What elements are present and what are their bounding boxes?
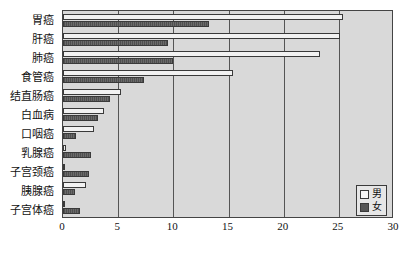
category-axis-labels: 胃癌肝癌肺癌食管癌结直肠癌白血病口咽癌乳腺癌子宫颈癌胰腺癌子宫体癌 (0, 10, 58, 218)
bar-male (63, 89, 121, 95)
bar-male (63, 182, 86, 188)
category-label: 食管癌 (0, 67, 58, 86)
bar-male (63, 108, 104, 114)
category-label: 结直肠癌 (0, 86, 58, 105)
category-label: 胰腺癌 (0, 180, 58, 199)
category-label: 子宫体癌 (0, 199, 58, 218)
legend-swatch-female (360, 203, 369, 212)
legend-item[interactable]: 女 (360, 202, 382, 212)
bar-group (63, 86, 392, 105)
bar-group (63, 105, 392, 124)
value-axis: 051015202530 (62, 218, 393, 242)
category-label: 肺癌 (0, 48, 58, 67)
bar-female (63, 77, 144, 83)
bar-group (63, 180, 392, 199)
bar-male (63, 70, 233, 76)
bar-male (63, 14, 343, 20)
x-axis-tick-label: 5 (114, 220, 120, 232)
bar-groups (63, 11, 392, 217)
category-label: 白血病 (0, 105, 58, 124)
bar-male (63, 51, 320, 57)
bar-female (63, 152, 91, 158)
bar-male (63, 164, 65, 170)
bar-female (63, 208, 80, 214)
bar-group (63, 30, 392, 49)
bar-female (63, 115, 98, 121)
category-label: 肝癌 (0, 29, 58, 48)
bar-group (63, 11, 392, 30)
bar-male (63, 33, 340, 39)
category-label: 胃癌 (0, 10, 58, 29)
legend: 男女 (356, 185, 387, 216)
bar-group (63, 142, 392, 161)
bar-male (63, 145, 66, 151)
bar-male (63, 201, 65, 207)
x-axis-tick-label: 20 (277, 220, 288, 232)
bar-male (63, 126, 94, 132)
category-label: 口咽癌 (0, 123, 58, 142)
bar-female (63, 58, 173, 64)
x-axis-tick-label: 10 (167, 220, 178, 232)
bar-group (63, 123, 392, 142)
bar-female (63, 96, 110, 102)
category-label: 子宫颈癌 (0, 161, 58, 180)
bar-group (63, 67, 392, 86)
legend-label: 女 (372, 202, 382, 212)
x-axis-tick-label: 15 (222, 220, 233, 232)
bar-group (63, 48, 392, 67)
x-axis-tick-label: 25 (332, 220, 343, 232)
legend-swatch-male (360, 190, 369, 199)
legend-item[interactable]: 男 (360, 189, 382, 199)
plot-area (62, 10, 393, 218)
bar-female (63, 133, 76, 139)
x-axis-tick-label: 0 (59, 220, 65, 232)
bar-female (63, 40, 168, 46)
bar-group (63, 161, 392, 180)
bar-female (63, 171, 89, 177)
bar-group (63, 198, 392, 217)
bar-chart: 胃癌肝癌肺癌食管癌结直肠癌白血病口咽癌乳腺癌子宫颈癌胰腺癌子宫体癌 051015… (0, 0, 416, 264)
bar-female (63, 21, 209, 27)
bar-female (63, 189, 75, 195)
category-label: 乳腺癌 (0, 142, 58, 161)
x-axis-tick-label: 30 (388, 220, 399, 232)
legend-label: 男 (372, 189, 382, 199)
